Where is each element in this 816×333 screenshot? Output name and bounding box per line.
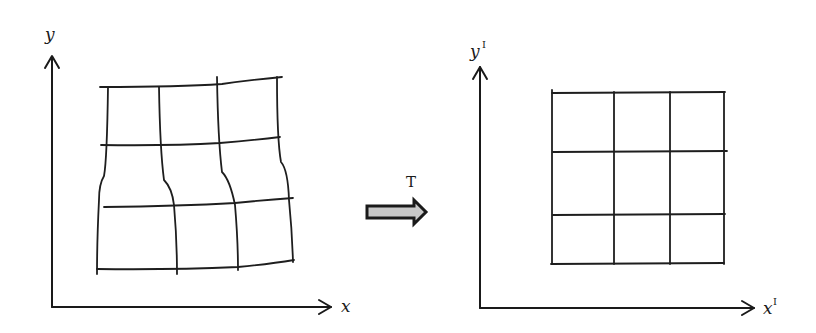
left-panel: y x (44, 24, 351, 316)
left-y-label: y (44, 24, 55, 44)
right-x-label: x I (763, 296, 777, 318)
right-arrow-icon (367, 200, 426, 224)
grid-h-line-4 (97, 260, 294, 269)
right-y-label: y I (469, 39, 486, 61)
right-x-label-base: x (763, 298, 773, 318)
right-x-label-sup: I (773, 296, 777, 307)
right-y-label-sup: I (482, 39, 486, 50)
right-panel: y I x I (469, 39, 777, 318)
grid-h-line-1 (552, 92, 725, 93)
transformation-diagram: y x T y I x (0, 0, 816, 333)
transform-arrow: T (367, 173, 426, 224)
left-x-label: x (341, 296, 351, 316)
grid-v-line-4 (277, 77, 293, 262)
grid-h-line-2 (101, 137, 280, 145)
grid-v-line-3 (217, 77, 238, 270)
grid-h-line-3 (104, 198, 293, 207)
grid-h-line-3 (553, 214, 725, 215)
grid-v-line-2 (159, 87, 177, 274)
grid-h-line-4 (551, 263, 724, 264)
distorted-grid (97, 77, 294, 274)
right-y-label-base: y (469, 41, 480, 61)
grid-v-line-1 (97, 87, 108, 274)
grid-h-line-1 (100, 77, 282, 87)
regular-grid (551, 90, 727, 264)
grid-h-line-2 (553, 151, 727, 152)
transform-label: T (406, 173, 416, 191)
